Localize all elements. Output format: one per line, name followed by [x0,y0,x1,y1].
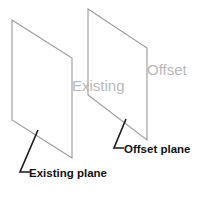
existing-plane-watermark-label: Existing [72,78,125,93]
existing-plane-shape [12,20,72,158]
offset-plane-watermark-label: Offset [147,62,187,77]
diagram-canvas: Existing Offset Existing plane Offset pl… [0,0,216,199]
offset-plane-callout-label: Offset plane [124,144,190,156]
existing-plane-leader-line [20,130,38,172]
existing-plane-callout-label: Existing plane [29,168,107,180]
offset-plane-shape [88,9,147,140]
